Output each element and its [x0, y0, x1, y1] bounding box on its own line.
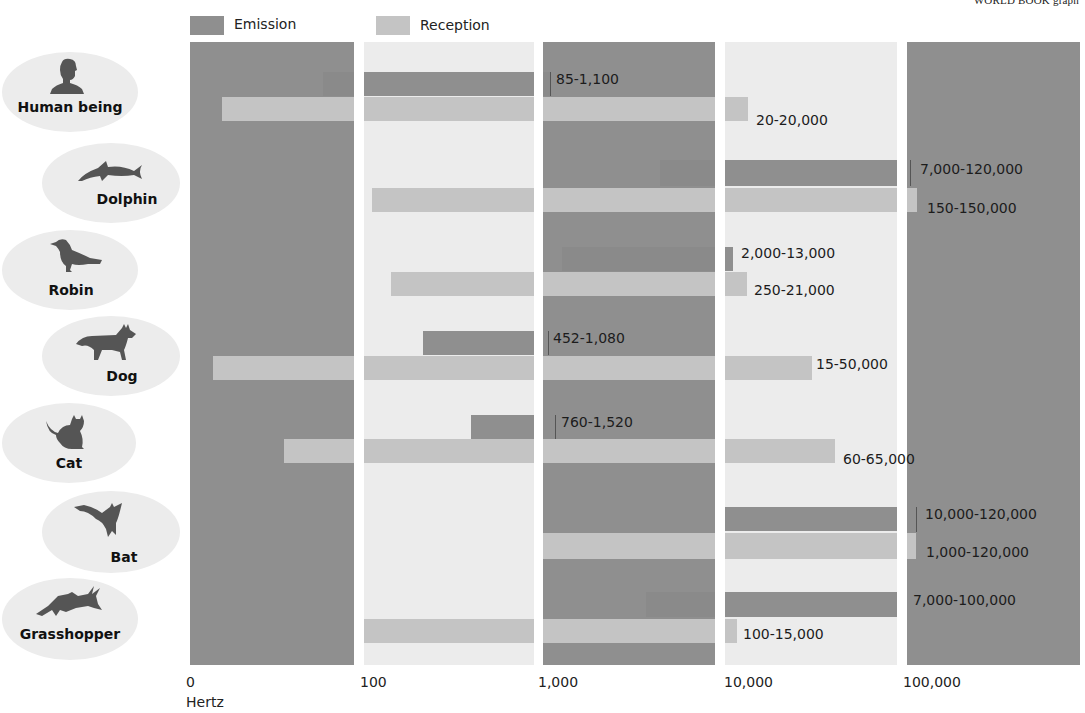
animal-label-dog: Dog: [82, 368, 162, 384]
reception-bar-cat: [725, 439, 835, 463]
emission-label-human: 85-1,100: [556, 70, 619, 88]
reception-label-dog: 15-50,000: [816, 355, 888, 373]
emission-bar-grasshopper: [725, 592, 897, 617]
reception-bar-grasshopper: [725, 619, 737, 643]
reception-bar-human: [222, 97, 354, 121]
reception-label-bat: 1,000-120,000: [926, 543, 1029, 561]
reception-bar-bat: [907, 533, 916, 559]
animal-label-grasshopper: Grasshopper: [2, 626, 138, 642]
legend-swatch-emission: [190, 16, 224, 35]
emission-bar-dolphin: [725, 160, 897, 186]
reception-bar-cat: [364, 439, 534, 463]
x-tick-10000: 10,000: [724, 674, 773, 690]
legend-swatch-reception: [376, 16, 410, 35]
band-100000-plus: [907, 42, 1080, 665]
reception-bar-dolphin: [372, 188, 534, 212]
animal-label-bat: Bat: [84, 549, 164, 565]
animal-bubble-dolphin: Dolphin: [42, 143, 180, 223]
reception-bar-cat: [543, 439, 715, 463]
reception-bar-dolphin: [907, 188, 917, 212]
reception-bar-robin: [391, 272, 534, 296]
animal-label-dolphin: Dolphin: [72, 191, 182, 207]
grasshopper-icon: [32, 584, 104, 620]
animal-bubble-bat: Bat: [42, 491, 180, 573]
reception-bar-dolphin: [543, 188, 715, 212]
x-tick-100000: 100,000: [903, 674, 961, 690]
range-tick: [916, 507, 917, 532]
emission-label-dog: 452-1,080: [553, 329, 625, 347]
range-tick: [550, 72, 551, 96]
emission-label-robin: 2,000-13,000: [741, 244, 835, 262]
emission-label-bat: 10,000-120,000: [925, 505, 1037, 523]
animal-label-human: Human being: [2, 99, 138, 115]
reception-bar-human: [543, 97, 715, 121]
animal-bubble-dog: Dog: [42, 316, 180, 396]
reception-label-dolphin: 150-150,000: [927, 199, 1017, 217]
x-tick-1000: 1,000: [538, 674, 578, 690]
emission-bar-robin: [562, 247, 715, 271]
emission-bar-human: [323, 72, 354, 96]
source-credit: WORLD BOOK graph: [974, 0, 1079, 6]
legend-label-emission: Emission: [234, 16, 296, 32]
emission-bar-human: [543, 72, 550, 96]
band-10000-100000: [725, 42, 897, 665]
range-tick: [555, 415, 556, 439]
reception-bar-human: [725, 97, 748, 121]
animal-label-cat: Cat: [2, 455, 136, 471]
reception-bar-bat: [725, 533, 897, 559]
reception-bar-grasshopper: [364, 619, 534, 643]
human-icon: [48, 58, 88, 96]
animal-bubble-grasshopper: Grasshopper: [2, 578, 138, 660]
emission-bar-robin: [725, 247, 733, 271]
reception-label-cat: 60-65,000: [843, 450, 915, 468]
emission-bar-human: [364, 72, 534, 96]
reception-bar-dog: [543, 356, 715, 380]
emission-label-cat: 760-1,520: [561, 413, 633, 431]
bat-icon: [72, 499, 136, 541]
range-tick: [910, 160, 911, 186]
robin-icon: [46, 236, 106, 276]
reception-bar-robin: [725, 272, 747, 296]
cat-icon: [44, 413, 88, 451]
legend: Emission Reception: [190, 14, 510, 38]
emission-label-dolphin: 7,000-120,000: [920, 160, 1023, 178]
x-tick-100: 100: [360, 674, 387, 690]
animal-bubble-human: Human being: [2, 52, 138, 132]
reception-bar-dog: [725, 356, 812, 380]
reception-label-human: 20-20,000: [756, 111, 828, 129]
reception-bar-bat: [543, 533, 715, 559]
emission-bar-cat: [471, 415, 534, 439]
dog-icon: [74, 322, 140, 362]
emission-bar-grasshopper: [646, 592, 715, 617]
reception-bar-grasshopper: [543, 619, 715, 643]
dolphin-icon: [76, 155, 146, 187]
animal-bubble-cat: Cat: [2, 403, 136, 483]
reception-bar-robin: [543, 272, 715, 296]
emission-bar-dolphin: [660, 160, 715, 186]
emission-bar-bat: [725, 507, 897, 531]
reception-label-grasshopper: 100-15,000: [743, 625, 824, 643]
reception-bar-dog: [364, 356, 534, 380]
reception-bar-cat: [284, 439, 354, 463]
reception-bar-dolphin: [725, 188, 897, 212]
band-0-100: [190, 42, 354, 665]
x-axis-unit: Hertz: [186, 694, 224, 710]
x-tick-0: 0: [186, 674, 195, 690]
animal-label-robin: Robin: [16, 282, 126, 298]
emission-bar-dog: [423, 331, 534, 355]
legend-label-reception: Reception: [420, 17, 490, 33]
band-1000-10000: [543, 42, 715, 665]
emission-label-grasshopper: 7,000-100,000: [913, 591, 1016, 609]
reception-label-robin: 250-21,000: [754, 281, 835, 299]
range-tick: [548, 331, 549, 355]
reception-bar-dog: [213, 356, 354, 380]
animal-bubble-robin: Robin: [2, 230, 138, 310]
reception-bar-human: [364, 97, 534, 121]
